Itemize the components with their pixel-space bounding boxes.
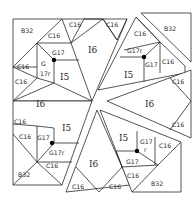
label-i5: I5 <box>119 133 129 143</box>
label-c16: C16 <box>17 63 29 70</box>
label-g17r: G17r <box>49 149 65 156</box>
label-b32: B32 <box>151 180 163 187</box>
label-c16: C16 <box>48 32 60 39</box>
label-g17: G17 <box>140 138 153 145</box>
seam-dot-top-right <box>142 55 146 59</box>
label-i5: I5 <box>60 72 70 82</box>
label-c16: C16 <box>172 121 184 128</box>
label-c16: C16 <box>134 30 146 37</box>
label-i5: I5 <box>62 123 72 133</box>
label-g17: G17 <box>145 61 158 68</box>
label-b32: B32 <box>164 25 176 32</box>
quilt-pattern-diagram: B32 C16 C16 C16 I6 G17 G 17r I5 C16 C16 … <box>0 0 195 202</box>
label-i6: I6 <box>36 99 46 109</box>
label-i6: I6 <box>88 45 98 55</box>
label-g: G <box>41 60 46 67</box>
label-c16: C16 <box>106 21 118 28</box>
label-g17: G17 <box>126 158 139 165</box>
label-c16: C16 <box>14 118 26 125</box>
label-i6: I6 <box>89 159 99 169</box>
label-c16: C16 <box>69 21 81 28</box>
seam-dot-bottom-right <box>135 149 139 153</box>
label-c16: C16 <box>15 78 27 85</box>
label-17r: 17r <box>40 70 51 77</box>
seam-dot-bottom-left <box>50 141 54 145</box>
seam-dot-top-left <box>52 58 56 62</box>
label-c16: C16 <box>162 58 174 65</box>
label-c16: C16 <box>159 142 171 149</box>
label-c16: C16 <box>19 133 31 140</box>
label-i6: I6 <box>145 99 155 109</box>
label-c16: C16 <box>46 162 58 169</box>
label-g17: G17 <box>52 49 65 56</box>
label-b32: B32 <box>18 171 30 178</box>
label-i5: I5 <box>124 70 134 80</box>
label-b32: B32 <box>21 27 33 34</box>
label-g17r: G17r <box>127 47 143 54</box>
label-c16: C16 <box>172 78 184 85</box>
label-g17: G17 <box>37 134 50 141</box>
label-c16: C16 <box>109 183 121 190</box>
label-c16: C16 <box>72 183 84 190</box>
label-c16: C16 <box>127 172 139 179</box>
